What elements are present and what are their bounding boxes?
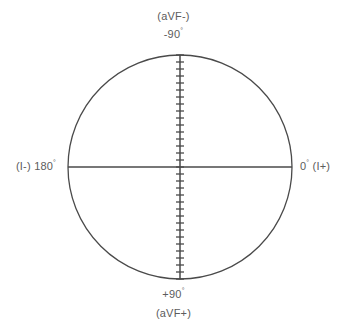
label-plus-90-degrees: +90°: [0, 288, 347, 300]
degree-symbol-icon: °: [182, 287, 185, 294]
label-avf-negative: (aVF-): [0, 10, 347, 22]
hexaxial-reference-diagram: (aVF-) -90° (I-) 180° 0° (I+) +90° (aVF+…: [0, 0, 347, 335]
label-180-value: 180: [34, 160, 53, 172]
label-avf-positive: (aVF+): [0, 307, 347, 319]
degree-symbol-icon: °: [53, 159, 56, 166]
degree-symbol-icon: °: [306, 159, 309, 166]
label-180-degrees: (I-) 180°: [16, 160, 56, 172]
label-avf-negative-text: (aVF-): [157, 10, 189, 22]
label-avf-positive-text: (aVF+): [156, 307, 191, 319]
label-lead-i-positive: (I+): [313, 160, 331, 172]
label-minus-90-degrees: -90°: [0, 28, 347, 40]
label-lead-i-negative: (I-): [16, 160, 31, 172]
label-minus-90-value: -90: [164, 28, 181, 40]
degree-symbol-icon: °: [180, 27, 183, 34]
label-0-degrees: 0° (I+): [300, 160, 330, 172]
label-plus-90-value: +90: [162, 288, 181, 300]
